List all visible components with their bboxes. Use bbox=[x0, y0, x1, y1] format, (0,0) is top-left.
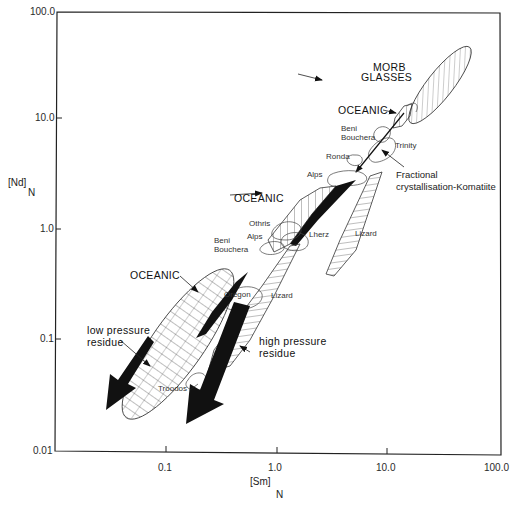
x-tick-10: 10.0 bbox=[376, 463, 395, 473]
label-ronda: Ronda bbox=[326, 153, 350, 161]
label-high-pressure: high pressure bbox=[259, 336, 327, 347]
x-tick-100: 100.0 bbox=[484, 463, 509, 473]
oceanic-upper-field bbox=[393, 104, 412, 128]
label-oregon: Oregon bbox=[224, 291, 251, 299]
x-tick-1: 1.0 bbox=[268, 463, 282, 473]
label-beni-mid: Beni bbox=[214, 237, 230, 245]
label-alps-top: Alps bbox=[307, 171, 323, 179]
label-troodos: Troodos bbox=[158, 385, 187, 393]
sm-nd-diagram: 100.0 10.0 1.0 0.1 0.01 0.1 1.0 10.0 100… bbox=[0, 0, 519, 505]
label-oceanic-low: OCEANIC bbox=[130, 270, 180, 281]
x-tick-0.1: 0.1 bbox=[158, 463, 172, 473]
label-othris: Othris bbox=[249, 220, 270, 228]
label-beni-top: Beni bbox=[341, 125, 357, 133]
y-axis-title: [Nd] bbox=[8, 178, 26, 188]
label-crystallisation-komatiite: crystallisation-Komatiite bbox=[396, 182, 496, 192]
y-axis-subscript: N bbox=[28, 188, 35, 198]
label-high-pressure-residue: residue bbox=[259, 348, 296, 359]
label-glasses: GLASSES bbox=[361, 72, 412, 83]
label-lherz: Lherz bbox=[309, 231, 329, 239]
label-fractional: Fractional bbox=[396, 170, 438, 180]
label-bouchera-mid: Bouchera bbox=[214, 246, 248, 254]
x-axis-subscript: N bbox=[276, 490, 283, 500]
label-oceanic-mid: OCEANIC bbox=[234, 193, 284, 204]
label-low-pressure: low pressure bbox=[87, 325, 150, 336]
label-alps-mid: Alps bbox=[247, 233, 263, 241]
label-trinity: Trinity bbox=[395, 142, 416, 150]
y-tick-0.1: 0.1 bbox=[40, 334, 54, 344]
label-bouchera-top: Bouchera bbox=[341, 134, 375, 142]
y-tick-100: 100.0 bbox=[30, 7, 55, 17]
x-axis-title: [Sm] bbox=[250, 477, 271, 487]
label-low-pressure-residue: residue bbox=[87, 337, 124, 348]
label-lizard-right: Lizard bbox=[355, 230, 377, 238]
y-tick-10: 10.0 bbox=[35, 113, 54, 123]
y-tick-0.01: 0.01 bbox=[33, 446, 52, 456]
label-oceanic-top: OCEANIC bbox=[338, 105, 388, 116]
y-tick-1: 1.0 bbox=[40, 224, 54, 234]
morb-glasses-field bbox=[400, 39, 480, 131]
label-lizard-low: Lizard bbox=[271, 292, 293, 300]
